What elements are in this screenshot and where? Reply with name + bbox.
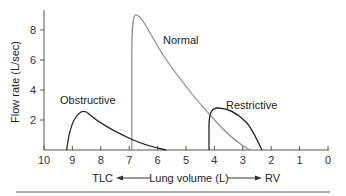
x-tick-label: 7 (126, 154, 132, 166)
annotation-normal: Normal (163, 34, 198, 46)
x-tick-label: 0 (325, 154, 331, 166)
y-tick-label: 6 (30, 54, 36, 66)
x-tick-label: 2 (268, 154, 274, 166)
y-ticks: 2 4 6 8 (30, 24, 44, 126)
y-tick-label: 8 (30, 24, 36, 36)
x-axis-label: Lung volume (L) (149, 172, 229, 184)
restrictive-curve (209, 108, 262, 150)
x-ticks: 10 9 8 7 6 5 4 3 2 1 0 (38, 146, 331, 166)
x-tick-label: 3 (240, 154, 246, 166)
right-arrowhead-icon (255, 176, 262, 181)
x-tick-label: 6 (155, 154, 161, 166)
x-tick-label: 5 (183, 154, 189, 166)
x-tick-label: 10 (38, 154, 50, 166)
x-axis-label-left: TLC (92, 172, 113, 184)
obstructive-curve (67, 111, 166, 150)
annotation-restrictive: Restrictive (226, 99, 277, 111)
annotation-obstructive: Obstructive (60, 94, 116, 106)
y-tick-label: 2 (30, 114, 36, 126)
left-arrowhead-icon (116, 176, 123, 181)
y-tick-label: 4 (30, 84, 36, 96)
flow-volume-chart: 2 4 6 8 10 9 8 7 6 5 4 3 2 1 0 Flow rate… (0, 0, 346, 196)
x-tick-label: 4 (211, 154, 217, 166)
x-axis-label-group: TLC Lung volume (L) RV (92, 172, 281, 184)
x-tick-label: 9 (69, 154, 75, 166)
y-axis-label: Flow rate (L/sec) (9, 41, 21, 123)
x-tick-label: 8 (98, 154, 104, 166)
x-tick-label: 1 (297, 154, 303, 166)
x-axis-label-right: RV (265, 172, 281, 184)
